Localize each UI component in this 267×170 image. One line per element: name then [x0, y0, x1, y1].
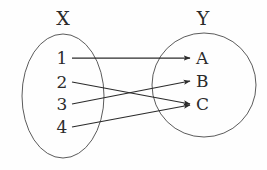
codomain-element-C: C — [196, 94, 209, 114]
domain-element-3: 3 — [57, 94, 68, 114]
mapping-diagram: X Y 1 2 3 4 A B C — [0, 0, 267, 170]
domain-element-1: 1 — [57, 48, 68, 68]
mapping-diagram-canvas: X Y 1 2 3 4 A B C — [0, 0, 267, 170]
codomain-set-title: Y — [196, 7, 210, 29]
domain-set-title: X — [56, 7, 70, 29]
mapping-arrow-4-to-C — [72, 105, 190, 127]
codomain-element-A: A — [195, 48, 209, 68]
domain-element-4: 4 — [57, 117, 68, 137]
domain-element-2: 2 — [57, 72, 68, 92]
codomain-element-B: B — [196, 71, 209, 91]
